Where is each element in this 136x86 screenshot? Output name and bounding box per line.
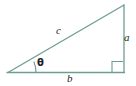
hypotenuse-label: c	[56, 25, 61, 36]
adjacent-leg-label: b	[67, 73, 73, 84]
hypotenuse-line	[8, 5, 124, 73]
right-triangle-figure: c a b θ	[0, 0, 136, 86]
angle-arc	[34, 62, 36, 73]
angle-theta-label: θ	[37, 58, 44, 68]
right-angle-marker-icon	[112, 62, 123, 73]
opposite-leg-label: a	[124, 32, 130, 43]
